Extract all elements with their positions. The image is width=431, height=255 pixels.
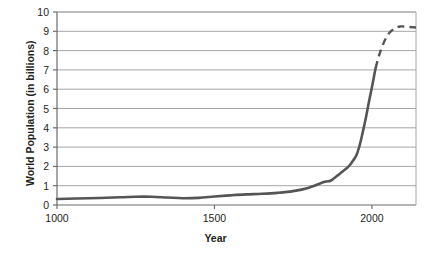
x-tick-label: 1000 [37,213,77,224]
x-tick-label: 1500 [194,213,234,224]
y-tick-label: 0 [27,200,49,211]
x-tick-label: 2000 [352,213,392,224]
world-population-chart: 012345678910 100015002000 World Populati… [0,0,431,255]
projected-population-line [376,26,416,68]
y-axis-title: World Population (in billions) [25,33,36,193]
gridlines [57,12,416,186]
historical-population-line [57,68,376,199]
y-tick-label: 10 [27,7,49,18]
x-axis-title: Year [0,233,431,244]
x-axis-ticks [57,205,372,209]
